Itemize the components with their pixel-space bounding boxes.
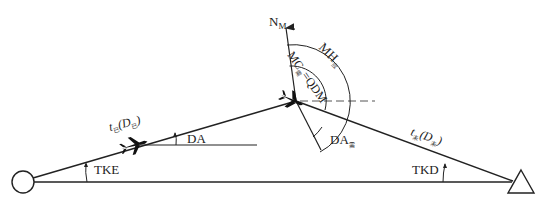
navigation-diagram: NM MH应 MC需=QDM t已(D已) t未(D未) DA DA需 TKE … <box>0 0 545 206</box>
flown-time-distance-label: t已(D已) <box>107 113 142 135</box>
remaining-track-line <box>296 101 513 181</box>
remaining-time-distance-label: t未(D未) <box>408 125 443 150</box>
da-required-arc <box>313 127 322 137</box>
flown-track-line <box>33 101 296 178</box>
tkd-label: TKD <box>412 162 439 177</box>
departure-point-icon <box>12 171 34 193</box>
drift-angle-label: DA <box>187 131 206 146</box>
north-label: NM <box>269 14 286 31</box>
mh-label: MH应 <box>314 40 345 71</box>
required-drift-angle-label: DA需 <box>330 132 355 149</box>
tke-label: TKE <box>94 162 119 177</box>
aircraft-current-icon <box>276 86 306 113</box>
